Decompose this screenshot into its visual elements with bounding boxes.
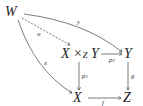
node-Z: Z [123,91,131,105]
label-u: u [37,31,41,38]
label-x: x [44,60,47,67]
node-Y: Y [124,47,132,61]
label-y: y [77,19,80,26]
label-p1: p1 [82,73,88,80]
label-f: f [102,100,104,106]
node-W: W [5,5,17,19]
pullback-left: X × [61,46,83,61]
label-p2: p2 [109,57,115,64]
label-g: g [131,73,135,80]
pullback-right: Y [88,46,99,61]
node-X: X [73,91,82,105]
node-pullback: X ×Z Y [61,47,99,62]
